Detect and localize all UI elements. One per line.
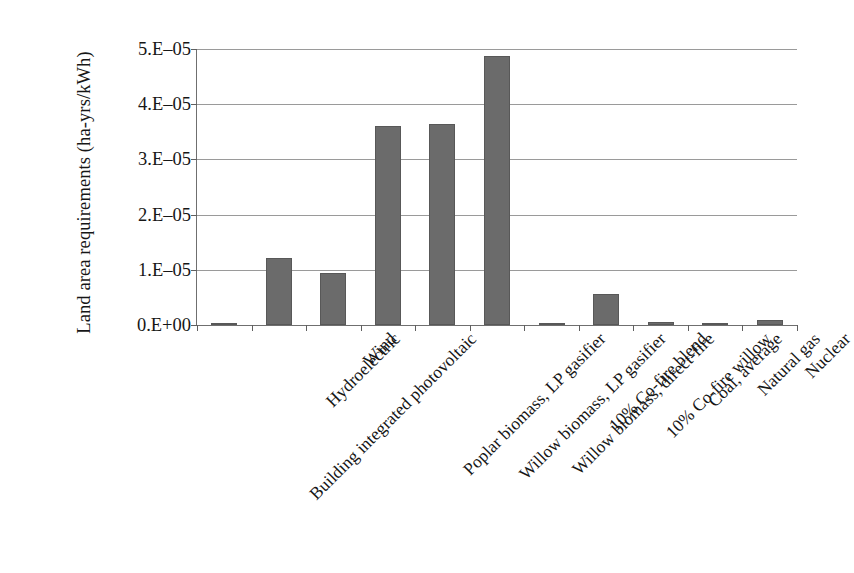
bar — [702, 323, 728, 325]
bar — [484, 56, 510, 325]
y-axis-tick — [191, 49, 197, 50]
y-axis-tick-label: 4.E–05 — [101, 95, 191, 114]
x-axis-baseline — [197, 325, 797, 326]
bar — [320, 273, 346, 325]
bar — [648, 322, 674, 325]
y-axis-tick-label: 0.E+00 — [101, 316, 191, 335]
y-axis-tick — [191, 215, 197, 216]
bars-series — [197, 49, 797, 325]
y-axis-tick-label: 5.E–05 — [101, 40, 191, 59]
y-axis-title: Land area requirements (ha-yrs/kWh) — [74, 33, 95, 353]
y-axis-tick-label: 2.E–05 — [101, 206, 191, 225]
x-axis-category-labels: Building integrated photovoltaicHydroele… — [197, 330, 837, 570]
bar — [593, 294, 619, 325]
bar — [757, 320, 783, 325]
x-axis-category-label: Building integrated photovoltaic — [307, 330, 480, 503]
bar — [266, 258, 292, 325]
y-axis-tick — [191, 325, 197, 326]
y-axis-tick-label: 1.E–05 — [101, 261, 191, 280]
y-axis-tick — [191, 270, 197, 271]
y-axis-tick — [191, 104, 197, 105]
bar — [211, 323, 237, 325]
y-axis-tick — [191, 159, 197, 160]
bar — [429, 124, 455, 325]
bar — [539, 323, 565, 325]
plot-area — [197, 49, 797, 325]
bar — [375, 126, 401, 325]
y-axis-tick-label: 3.E–05 — [101, 150, 191, 169]
y-axis-tick-labels: 5.E–054.E–053.E–052.E–051.E–050.E+00 — [95, 49, 191, 325]
